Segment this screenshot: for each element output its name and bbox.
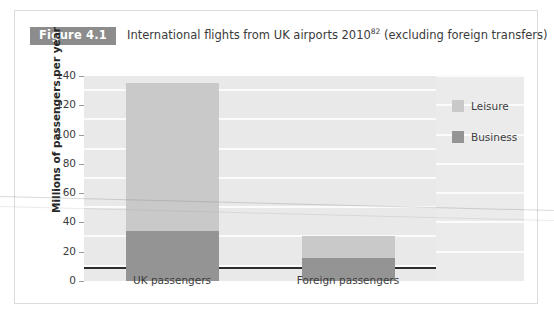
- figure-number-badge: Figure 4.1: [30, 27, 116, 46]
- legend-swatch-leisure: [452, 100, 464, 112]
- y-axis-tick-mark: [79, 164, 84, 165]
- gridline-extension: [436, 75, 524, 77]
- y-axis-tick-mark: [79, 76, 84, 77]
- bar-stack[interactable]: [302, 76, 395, 281]
- y-axis-tick-mark: [79, 193, 84, 194]
- bar-segment-leisure[interactable]: [126, 83, 219, 231]
- figure-root: Figure 4.1 International flights from UK…: [0, 0, 554, 316]
- y-axis-tick-label: 140: [44, 70, 76, 81]
- y-axis-tick-mark: [79, 105, 84, 106]
- legend-item[interactable]: Business: [452, 131, 517, 143]
- figure-caption-text: International flights from UK airports 2…: [127, 30, 547, 42]
- legend-label: Leisure: [471, 100, 509, 112]
- figure-caption: Figure 4.1 International flights from UK…: [30, 26, 548, 46]
- caption-main-text: International flights from UK airports 2…: [127, 28, 371, 42]
- y-axis-tick-mark: [79, 222, 84, 223]
- caption-footnote-marker: 82: [371, 27, 381, 36]
- caption-tail-text: (excluding foreign transfers): [380, 28, 547, 42]
- y-axis-tick-mark: [79, 135, 84, 136]
- x-axis-tick-label: UK passengers: [92, 274, 252, 286]
- gridline-extension: [436, 163, 524, 165]
- y-axis-tick-label: 40: [44, 216, 76, 227]
- bar-segment-leisure[interactable]: [302, 236, 395, 258]
- bar-stack[interactable]: [126, 76, 219, 281]
- x-axis-tick-label: Foreign passengers: [268, 274, 428, 286]
- chart-canvas: Millions of passengers per year 02040608…: [28, 62, 524, 294]
- y-axis-tick-label: 100: [44, 129, 76, 140]
- chart-legend: LeisureBusiness: [452, 100, 517, 162]
- y-axis-tick-mark: [79, 252, 84, 253]
- legend-label: Business: [471, 131, 517, 143]
- y-axis-tick-label: 0: [44, 275, 76, 286]
- y-axis-tick-label: 80: [44, 158, 76, 169]
- gridline-extension: [436, 221, 524, 223]
- y-axis-tick-label: 20: [44, 246, 76, 257]
- legend-item[interactable]: Leisure: [452, 100, 517, 112]
- y-axis-tick-mark: [79, 281, 84, 282]
- y-axis-tick-label: 60: [44, 187, 76, 198]
- gridline-extension: [436, 251, 524, 253]
- gridline-extension: [436, 192, 524, 194]
- y-axis-tick-label: 120: [44, 99, 76, 110]
- legend-swatch-business: [452, 131, 464, 143]
